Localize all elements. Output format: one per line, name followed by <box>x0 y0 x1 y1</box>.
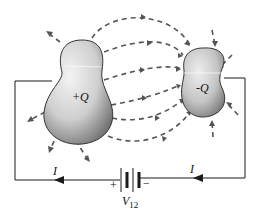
voltage-subscript: 12 <box>129 200 138 210</box>
field-line <box>104 42 183 55</box>
arrow-head-icon <box>176 66 181 72</box>
arrow-head-icon <box>209 120 215 126</box>
arrow-head-icon <box>162 136 167 142</box>
field-line <box>92 18 190 45</box>
arrow-head-icon <box>142 95 147 101</box>
battery <box>121 168 139 192</box>
arrow-head-icon <box>48 146 54 153</box>
field-line <box>100 112 190 141</box>
battery-minus-sign: − <box>143 176 150 190</box>
arrow-head-icon <box>147 40 152 46</box>
current-label-left: I <box>52 164 58 178</box>
label-positive-charge: +Q <box>72 90 89 104</box>
label-negative-charge: -Q <box>196 81 209 95</box>
arrow-head-icon <box>212 41 218 47</box>
field-line <box>111 85 180 105</box>
battery-voltage-label: V12 <box>122 194 138 210</box>
arrow-head-icon <box>155 115 160 121</box>
current-label-right: I <box>189 162 195 176</box>
arrow-head-icon <box>84 155 90 162</box>
arrow-head-icon <box>141 14 146 20</box>
arrow-head-icon <box>140 67 145 73</box>
arrow-head-icon <box>176 84 181 89</box>
battery-plus-sign: + <box>110 178 117 192</box>
diagram-canvas: +Q -Q + − V12 I I <box>0 0 259 215</box>
current-arrow-right <box>193 174 203 182</box>
capacitor-field-diagram: +Q -Q + − V12 I I <box>0 0 259 215</box>
